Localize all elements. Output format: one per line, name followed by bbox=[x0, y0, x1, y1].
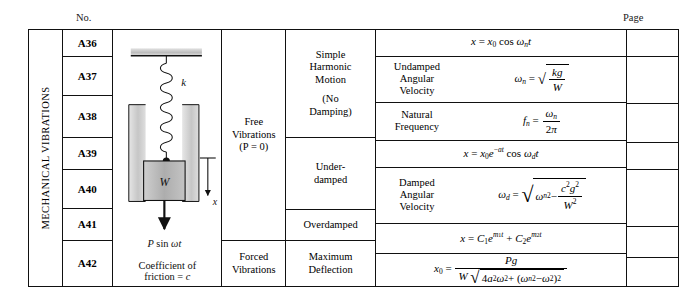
displacement-label: x bbox=[212, 196, 218, 207]
free-vibrations-line1: Free bbox=[232, 116, 276, 128]
mass-block: W bbox=[143, 161, 184, 201]
formula-shm-displacement: x = x0 cos ωnt bbox=[376, 30, 626, 57]
equation-natural-frequency: fn = ωn2π bbox=[523, 107, 561, 137]
vibration-type-column: Free Vibrations (P = 0) Forced Vibration… bbox=[222, 30, 286, 286]
table-row[interactable]: A40 bbox=[63, 170, 112, 209]
equation-maximum-deflection: x0 = Pg W √ 4a2 ω2 + (ωn2 − ω2)2 bbox=[434, 254, 568, 286]
shm-line5: Damping) bbox=[309, 106, 352, 118]
equation-undamped-angular-velocity: ωn = √ kgW bbox=[515, 64, 570, 95]
table-row[interactable]: A41 bbox=[63, 209, 112, 241]
force-label: P sin ωt bbox=[146, 238, 182, 249]
formula-underdamped-displacement: x = x0e−at cos ωdt bbox=[376, 141, 626, 168]
natural-frequency-label: Natural Frequency bbox=[376, 109, 458, 133]
spring bbox=[160, 56, 172, 161]
header-no: No. bbox=[76, 12, 91, 23]
underdamped-line2: damped bbox=[314, 174, 347, 186]
motion-type-overdamped: Overdamped bbox=[286, 210, 375, 241]
table-row[interactable]: A38 bbox=[63, 96, 112, 138]
category-column: MECHANICAL VIBRATIONS bbox=[29, 30, 63, 286]
table-row[interactable]: A42 bbox=[63, 241, 112, 286]
undamped-angular-velocity-label: Undamped Angular Velocity bbox=[376, 61, 458, 97]
formula-natural-frequency: Natural Frequency fn = ωn2π bbox=[376, 103, 626, 141]
shm-line1: Simple bbox=[309, 49, 352, 61]
spring-stiffness-label: k bbox=[181, 76, 186, 88]
ceiling-support bbox=[131, 48, 202, 55]
table-row[interactable]: A37 bbox=[63, 57, 112, 96]
shm-line2: Harmonic bbox=[309, 61, 352, 73]
shm-line4: (No bbox=[309, 93, 352, 105]
page-cell[interactable] bbox=[627, 227, 678, 258]
max-deflection-line1: Maximum bbox=[308, 251, 352, 263]
motion-type-shm: Simple Harmonic Motion (No Damping) bbox=[286, 30, 375, 138]
friction-caption-line1: Coefficient of bbox=[138, 260, 196, 271]
mass-label: W bbox=[159, 175, 170, 189]
number-column: A36 A37 A38 A39 A40 A41 A42 bbox=[63, 30, 113, 286]
table-row[interactable]: A36 bbox=[63, 30, 112, 57]
table-row[interactable]: A39 bbox=[63, 138, 112, 170]
equation-damped-angular-velocity: ωd = √ ωn2 − c2g2W2 bbox=[498, 178, 586, 212]
page-cell[interactable] bbox=[627, 104, 678, 143]
page-cell[interactable] bbox=[627, 30, 678, 57]
formula-damped-angular-velocity: Damped Angular Velocity ωd = √ ωn2 − c2g… bbox=[376, 168, 626, 224]
forced-vibrations-line1: Forced bbox=[232, 251, 276, 263]
equation-underdamped-displacement: x = x0e−at cos ωdt bbox=[464, 146, 539, 162]
damped-angular-velocity-label: Damped Angular Velocity bbox=[376, 177, 458, 213]
formula-undamped-angular-velocity: Undamped Angular Velocity ωn = √ kgW bbox=[376, 57, 626, 103]
page-cell[interactable] bbox=[627, 170, 678, 227]
page-cell[interactable] bbox=[627, 258, 678, 286]
max-deflection-line2: Deflection bbox=[308, 264, 352, 276]
vibration-type-free: Free Vibrations (P = 0) bbox=[222, 30, 285, 241]
formula-overdamped-displacement: x = C1em1t + C2em2t bbox=[376, 224, 626, 255]
motion-type-column: Simple Harmonic Motion (No Damping) Unde… bbox=[286, 30, 376, 286]
forced-vibrations-line2: Vibrations bbox=[232, 264, 276, 276]
equation-overdamped-displacement: x = C1em1t + C2em2t bbox=[460, 231, 541, 247]
displacement-axis bbox=[200, 158, 216, 196]
category-label: MECHANICAL VIBRATIONS bbox=[40, 87, 51, 230]
formula-column: x = x0 cos ωnt Undamped Angular Velocity… bbox=[376, 30, 627, 286]
friction-caption-line2: friction = c bbox=[144, 271, 191, 282]
diagram-column: k W P bbox=[113, 30, 223, 286]
shm-line3: Motion bbox=[309, 74, 352, 86]
free-vibrations-line3: (P = 0) bbox=[232, 141, 276, 153]
page-cell[interactable] bbox=[627, 143, 678, 170]
header-page: Page bbox=[623, 12, 643, 23]
page-column bbox=[627, 30, 678, 286]
formula-reference-table: MECHANICAL VIBRATIONS A36 A37 A38 A39 A4… bbox=[28, 29, 679, 287]
formula-maximum-deflection: x0 = Pg W √ 4a2 ω2 + (ωn2 − ω2)2 bbox=[376, 254, 626, 286]
underdamped-line1: Under- bbox=[314, 161, 347, 173]
free-vibrations-line2: Vibrations bbox=[232, 129, 276, 141]
page-cell[interactable] bbox=[627, 57, 678, 104]
spring-mass-damper-diagram: k W P bbox=[113, 30, 222, 286]
motion-type-underdamped: Under- damped bbox=[286, 138, 375, 210]
motion-type-maximum-deflection: Maximum Deflection bbox=[286, 241, 375, 286]
vibration-type-forced: Forced Vibrations bbox=[222, 241, 285, 286]
equation-shm-displacement: x = x0 cos ωnt bbox=[471, 35, 531, 50]
